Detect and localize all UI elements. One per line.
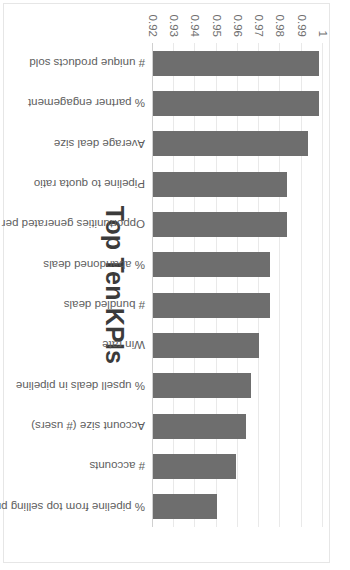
plot-area: 0.920.930.940.950.960.970.980.991 [153,43,323,527]
category-slot: Pipeline to quota ratio [0,164,149,204]
category-axis-label: # accounts [89,460,145,472]
category-slot: # unique products sold [0,43,149,83]
value-axis-tick-label: 0.93 [168,15,180,37]
bar-slot [153,325,323,365]
category-slot: % partner engagement [0,83,149,123]
category-axis-label: Average deal size [54,138,145,150]
value-axis-tick-label: 0.97 [253,15,265,37]
bar[interactable] [153,414,247,439]
bar-slot [153,43,323,83]
category-slot: # accounts [0,446,149,486]
category-axis-label: Pipeline to quota ratio [34,178,145,190]
value-axis-tick-label: 0.92 [147,15,159,37]
category-slot: Opportunities generated per quarter [0,204,149,244]
category-slot: % pipeline from top selling products [0,487,149,527]
value-axis-tick-label: 0.94 [190,15,202,37]
category-axis-label: Win rate [102,339,145,351]
bar-slot [153,164,323,204]
category-axis-label: % abandoned deals [43,259,145,271]
bar-slot [153,83,323,123]
bar-slot [153,245,323,285]
chart-page: Top Ten KPIs 0.920.930.940.950.960.970.9… [0,0,350,570]
bar-slot [153,487,323,527]
category-axis-label: # bundled deals [64,299,145,311]
bar[interactable] [153,454,236,479]
bar-slot [153,285,323,325]
value-axis-tick-label: 0.98 [275,15,287,37]
bar-slot [153,366,323,406]
bar[interactable] [153,212,287,237]
bar-slot [153,204,323,244]
value-axis-tick-label: 0.95 [211,15,223,37]
category-slot: Win rate [0,325,149,365]
bar-series [153,43,323,527]
category-axis-label: % pipeline from top selling products [0,501,145,513]
bar[interactable] [153,252,270,277]
bar-slot [153,406,323,446]
bar[interactable] [153,172,287,197]
bar[interactable] [153,494,217,519]
value-axis-tick-label: 0.96 [232,15,244,37]
bar-chart: Top Ten KPIs 0.920.930.940.950.960.970.9… [25,25,325,545]
bar[interactable] [153,293,270,318]
bar-slot [153,446,323,486]
category-axis-label: Opportunities generated per quarter [0,218,145,230]
bar[interactable] [153,333,259,358]
category-axis-labels: # unique products sold% partner engageme… [0,43,149,527]
category-slot: # bundled deals [0,285,149,325]
category-axis-label: % partner engagement [28,97,145,109]
bar-slot [153,124,323,164]
category-axis-label: % upsell deals in pipeline [16,380,145,392]
category-slot: Account size (# users) [0,406,149,446]
category-slot: % upsell deals in pipeline [0,366,149,406]
category-axis-label: # unique products sold [29,57,145,69]
value-axis-tick-label: 1 [317,31,329,37]
bar[interactable] [153,91,319,116]
bar[interactable] [153,51,319,76]
category-slot: Average deal size [0,124,149,164]
bar[interactable] [153,373,251,398]
bar[interactable] [153,131,308,156]
category-slot: % abandoned deals [0,245,149,285]
category-axis-label: Account size (# users) [31,420,145,432]
value-axis-tick-label: 0.99 [296,15,308,37]
